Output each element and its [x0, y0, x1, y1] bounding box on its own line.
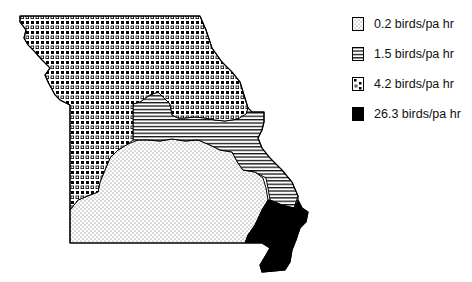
legend-label: 0.2 birds/pa hr [374, 17, 454, 31]
legend-item-26-3: 26.3 birds/pa hr [352, 107, 461, 121]
map-legend: 0.2 birds/pa hr 1.5 birds/pa hr 4.2 bird… [352, 17, 461, 137]
solid-black-swatch-icon [352, 107, 364, 121]
large-dots-swatch-icon [352, 77, 364, 91]
legend-item-4-2: 4.2 birds/pa hr [352, 77, 461, 91]
legend-label: 1.5 birds/pa hr [374, 47, 454, 61]
legend-label: 26.3 birds/pa hr [374, 107, 461, 121]
legend-label: 4.2 birds/pa hr [374, 77, 454, 91]
legend-item-1-5: 1.5 birds/pa hr [352, 47, 461, 61]
legend-item-0-2: 0.2 birds/pa hr [352, 17, 461, 31]
horizontal-lines-swatch-icon [352, 47, 364, 61]
fine-dots-swatch-icon [352, 17, 364, 31]
